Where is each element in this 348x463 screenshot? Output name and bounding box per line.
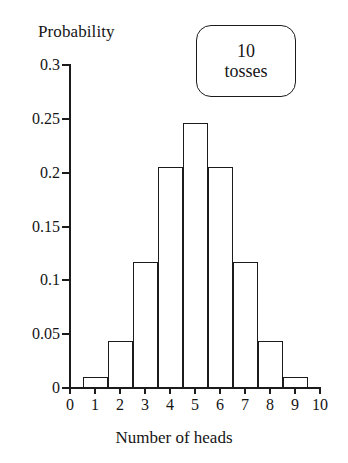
y-tick-4 (62, 172, 71, 174)
x-tick-1 (94, 387, 96, 394)
x-tick-label-9: 9 (282, 396, 308, 414)
y-tick-2 (62, 279, 71, 281)
x-axis-title: Number of heads (0, 428, 348, 448)
y-tick-label-4: 0.2 (40, 164, 60, 182)
bar-1-heads (83, 377, 108, 388)
y-tick-label-3: 0.15 (32, 218, 60, 236)
y-tick-label-5: 0.25 (32, 110, 60, 128)
y-tick-3 (62, 226, 71, 228)
x-tick-2 (119, 387, 121, 394)
x-tick-label-7: 7 (232, 396, 258, 414)
y-tick-5 (62, 118, 71, 120)
x-tick-label-4: 4 (157, 396, 183, 414)
x-tick-label-8: 8 (257, 396, 283, 414)
x-tick-9 (294, 387, 296, 394)
y-tick-label-2: 0.1 (40, 271, 60, 289)
probability-histogram-figure: Probability 10 tosses 00.050.10.150.20.2… (0, 0, 348, 463)
plot-area: 00.050.10.150.20.250.3 012345678910 (0, 0, 348, 463)
x-tick-7 (244, 387, 246, 394)
y-tick-label-1: 0.05 (32, 325, 60, 343)
x-tick-label-10: 10 (307, 396, 333, 414)
y-tick-label-6: 0.3 (40, 56, 60, 74)
x-tick-3 (144, 387, 146, 394)
bar-3-heads (133, 262, 158, 388)
y-tick-1 (62, 333, 71, 335)
bar-8-heads (258, 341, 283, 388)
x-tick-0 (69, 387, 71, 394)
x-tick-10 (319, 387, 321, 394)
bar-9-heads (283, 377, 308, 388)
bar-5-heads (183, 123, 208, 388)
x-tick-label-5: 5 (182, 396, 208, 414)
bar-4-heads (158, 167, 183, 388)
x-tick-label-6: 6 (207, 396, 233, 414)
y-tick-label-0: 0 (52, 379, 60, 397)
x-tick-label-0: 0 (57, 396, 83, 414)
y-tick-6 (62, 64, 71, 66)
bar-2-heads (108, 341, 133, 388)
bar-10-heads (308, 387, 321, 388)
bar-7-heads (233, 262, 258, 388)
x-tick-5 (194, 387, 196, 394)
x-tick-4 (169, 387, 171, 394)
bar-0-heads (70, 387, 83, 388)
x-tick-6 (219, 387, 221, 394)
x-tick-label-2: 2 (107, 396, 133, 414)
x-tick-label-1: 1 (82, 396, 108, 414)
bar-6-heads (208, 167, 233, 388)
x-tick-8 (269, 387, 271, 394)
x-tick-label-3: 3 (132, 396, 158, 414)
